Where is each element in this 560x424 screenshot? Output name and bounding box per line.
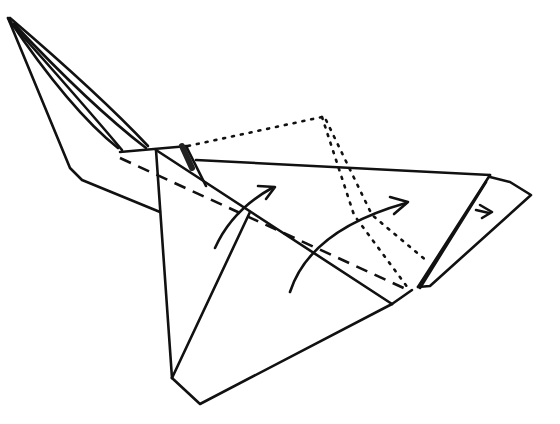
hidden-edges	[188, 117, 428, 288]
tail-inner-edge-2	[10, 22, 122, 150]
tail-inner-edge-3	[14, 24, 146, 148]
tail-top-edge	[10, 18, 148, 146]
left-lower-crease	[172, 212, 250, 378]
origami-diagram	[0, 0, 560, 424]
hidden-edge-top	[188, 117, 322, 146]
bottom-edge	[172, 304, 392, 404]
left-body-edge	[156, 150, 172, 378]
center-top-edge	[120, 146, 188, 152]
diagonal-center-crease	[156, 150, 392, 304]
solid-edges	[8, 18, 531, 404]
hidden-edge-right-2	[326, 120, 428, 262]
right-flap-outline	[418, 177, 531, 287]
main-top-edge	[196, 160, 490, 175]
fold-arrow-left-shaft	[215, 188, 272, 248]
origami-diagram-canvas	[0, 0, 560, 424]
right-lower-edge	[392, 290, 412, 304]
right-layer-edge-2	[420, 182, 486, 288]
